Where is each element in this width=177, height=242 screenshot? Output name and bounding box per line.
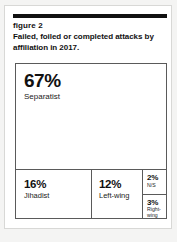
- ns-label: N/S: [147, 182, 166, 188]
- top-rule-divider: [13, 14, 167, 18]
- jihadist-label: Jihadist: [24, 191, 91, 200]
- figure-card: figure 2 Failed, foiled or completed att…: [4, 5, 172, 229]
- separatist-value: 67%: [24, 71, 166, 91]
- figure-page: figure 2 Failed, foiled or completed att…: [0, 0, 177, 242]
- treemap-cell-ns: 2% N/S: [142, 169, 166, 194]
- ns-value: 2%: [147, 173, 166, 182]
- right-wing-label: Right-wing: [147, 207, 164, 218]
- treemap-chart: 67% Separatist 16% Jihadist 12% Left-win…: [15, 63, 167, 219]
- jihadist-value: 16%: [24, 178, 91, 190]
- left-wing-value: 12%: [99, 178, 142, 190]
- figure-label: figure 2: [13, 21, 43, 31]
- treemap-cell-separatist: 67% Separatist: [16, 64, 166, 169]
- left-wing-label: Left-wing: [99, 191, 142, 200]
- treemap-cell-left-wing: 12% Left-wing: [91, 169, 142, 218]
- separatist-label: Separatist: [24, 92, 166, 102]
- figure-caption: Failed, foiled or completed attacks by a…: [13, 32, 165, 53]
- treemap-cell-right-wing: 3% Right-wing: [142, 194, 166, 218]
- treemap-cell-jihadist: 16% Jihadist: [16, 169, 91, 218]
